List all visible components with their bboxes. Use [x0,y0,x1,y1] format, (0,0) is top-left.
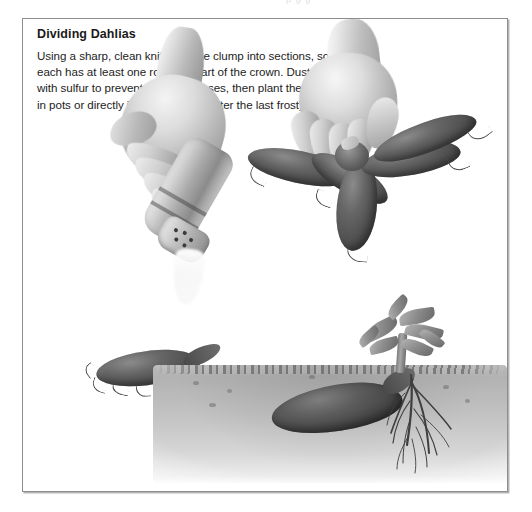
figure-planted-division [153,297,507,487]
figure-hand-holding-clump [263,19,507,269]
rootlet [346,244,368,262]
soil-speck [309,375,315,379]
cap-hole [182,230,187,235]
dividing-dahlias-sidebar: Dividing Dahlias Using a sharp, clean kn… [22,18,508,492]
soil-speck [193,381,199,385]
illustration [23,19,507,491]
rootlet [136,383,152,397]
rootlet [313,189,335,209]
root-system-icon [381,371,501,481]
cap-hole [188,237,193,242]
rootlet [111,382,130,397]
soil-speck [227,389,232,393]
cap-hole [182,243,187,248]
cap-hole [174,237,179,242]
cap-hole [173,227,178,232]
soil-speck [209,403,216,407]
page-header-bleed: p g g [286,0,526,5]
